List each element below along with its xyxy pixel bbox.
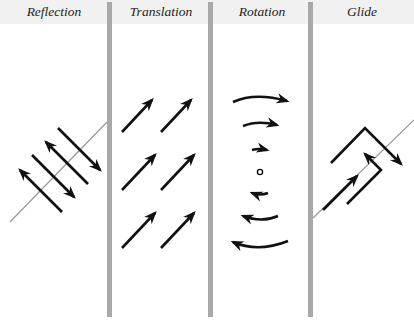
rotation-center [257,169,262,174]
rotation-arc [233,97,287,102]
translation-arrow [122,155,155,190]
translation-arrow [161,100,191,132]
reflection-arrow [58,128,100,170]
rotation-arc [252,193,268,195]
translation-figure [122,100,194,248]
rotation-arc [243,216,278,220]
glide-figure [313,120,414,218]
translation-arrow [161,155,194,190]
translation-arrow [122,213,155,248]
rotation-arc [252,149,267,150]
rotation-arc [233,241,288,247]
rotation-arc [243,123,277,126]
translation-arrow [161,213,194,248]
symmetry-diagram [0,0,414,327]
glide-arrow [347,154,381,204]
reflection-figure [10,122,107,222]
rotation-figure [233,97,288,248]
glide-arrow [323,176,357,210]
glide-arrow [331,128,401,164]
translation-arrow [122,100,152,132]
reflection-arrow [32,155,74,197]
